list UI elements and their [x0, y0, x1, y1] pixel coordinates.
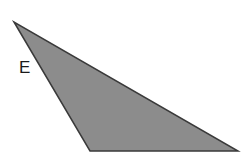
side-label-e: E: [19, 59, 30, 76]
triangle-shape: [14, 22, 238, 151]
triangle-diagram: [0, 0, 247, 157]
